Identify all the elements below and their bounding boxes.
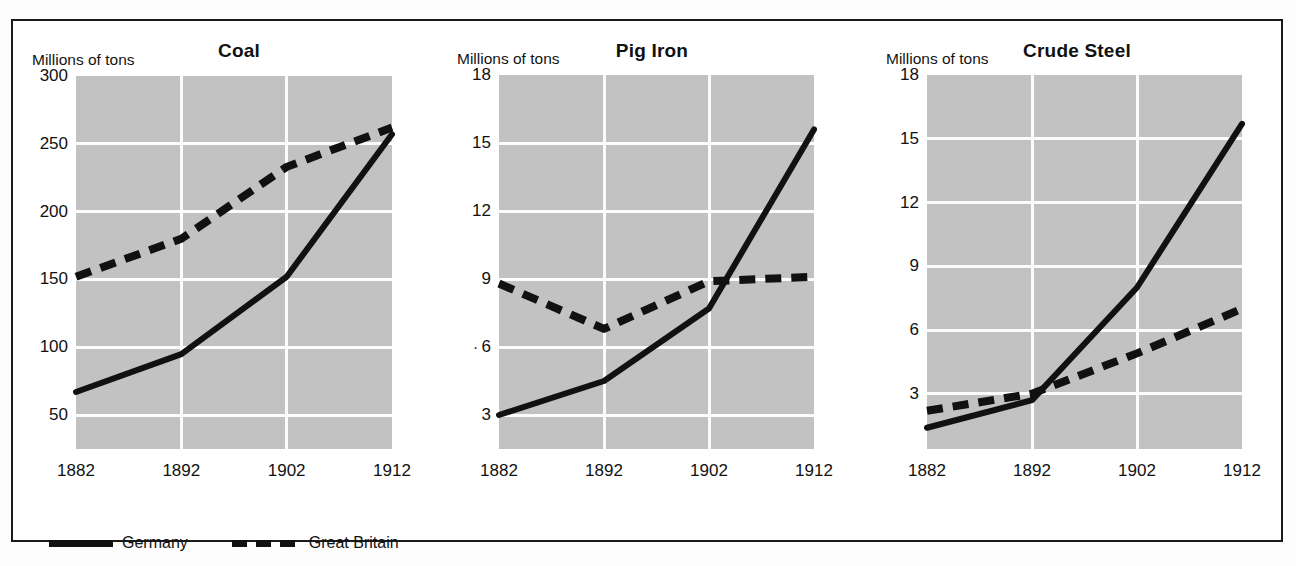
chart-frame-border: CoalMillions of tons50100150200250300188… xyxy=(11,19,1283,542)
x-axis-tick-label: 1902 xyxy=(1118,461,1156,481)
y-axis-tick-label: 6 xyxy=(855,320,919,340)
x-axis-tick-label: 1892 xyxy=(1013,461,1051,481)
y-axis-tick-label: 9 xyxy=(855,256,919,276)
dashed-line-swatch-icon xyxy=(232,540,300,547)
series-line-great-britain xyxy=(927,309,1242,411)
y-axis-tick-label: 18 xyxy=(855,65,919,85)
series-layer xyxy=(927,75,1246,453)
x-axis-tick-label: 1912 xyxy=(1223,461,1261,481)
y-axis-tick-label: 3 xyxy=(855,384,919,404)
legend-entry: Germany xyxy=(49,534,188,552)
chart-legend: GermanyGreat Britain xyxy=(49,534,399,552)
plot-area xyxy=(927,75,1242,449)
chart-panel: Crude SteelMillions of tons3691215181882… xyxy=(13,21,1281,540)
series-line-germany xyxy=(927,124,1242,428)
solid-line-swatch-icon xyxy=(49,540,113,547)
legend-label: Germany xyxy=(122,534,188,552)
y-axis-tick-label: 12 xyxy=(855,193,919,213)
figure-canvas: CoalMillions of tons50100150200250300188… xyxy=(0,0,1296,566)
legend-label: Great Britain xyxy=(309,534,399,552)
legend-entry: Great Britain xyxy=(232,534,399,552)
y-axis-tick-label: 15 xyxy=(855,129,919,149)
x-axis-tick-label: 1882 xyxy=(908,461,946,481)
